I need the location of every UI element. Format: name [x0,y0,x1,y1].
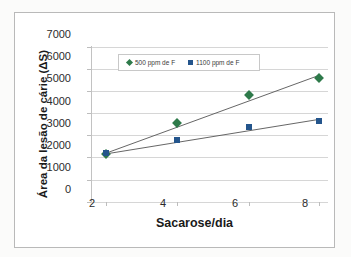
legend-item-500ppm: 500 ppm de F [127,59,175,66]
x-tick-label-6: 6 [223,198,247,209]
y-tick-label-1000: 1000 [23,162,71,173]
x-tick-mark-8 [319,202,320,206]
y-tick-label-0: 0 [23,184,71,195]
x-axis-title: Sacarose/dia [76,216,313,230]
screenshot-root: Área da lesão de cárie (ΔS) [0,0,351,257]
x-tick-mark-4 [177,202,178,206]
legend-diamond-icon [126,59,133,66]
x-tick-mark-6 [249,202,250,206]
y-tick-label-5000: 5000 [23,73,71,84]
chart-figure-frame: Área da lesão de cárie (ΔS) [14,12,335,248]
data-point-1100ppm-x8 [316,118,322,124]
chart-legend: 500 ppm de F 1100 ppm de F [118,54,260,71]
legend-label-1100ppm: 1100 ppm de F [196,59,239,66]
y-tick-label-3000: 3000 [23,118,71,129]
data-point-1100ppm-x4 [174,137,180,143]
y-tick-label-7000: 7000 [23,29,71,40]
x-tick-label-4: 4 [151,198,175,209]
y-tick-label-4000: 4000 [23,96,71,107]
legend-item-1100ppm: 1100 ppm de F [188,59,239,66]
x-tick-label-8: 8 [293,198,317,209]
y-tick-label-2000: 2000 [23,140,71,151]
trendline-500ppm [106,75,319,153]
x-tick-mark-2 [106,202,107,206]
legend-square-icon [188,60,193,65]
x-tick-label-2: 2 [80,198,104,209]
y-tick-label-6000: 6000 [23,51,71,62]
data-point-1100ppm-x2 [103,150,109,156]
trendline-1100ppm [106,119,319,153]
data-point-1100ppm-x6 [246,124,252,130]
legend-label-500ppm: 500 ppm de F [135,59,175,66]
